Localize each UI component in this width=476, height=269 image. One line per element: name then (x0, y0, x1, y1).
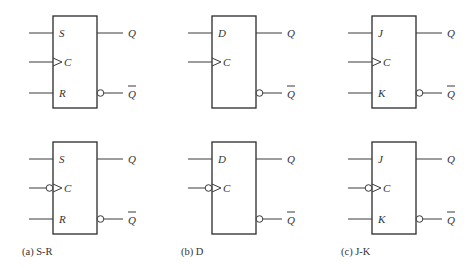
caption-sr: (a) S-R (22, 246, 53, 258)
inversion-bubble-icon (416, 90, 423, 97)
inversion-bubble-icon (256, 216, 263, 223)
output-label-q-bar: Q (287, 88, 295, 100)
output-label-q: Q (447, 153, 455, 165)
flip-flop-jk-rising-edge: JCKQQ (348, 16, 455, 108)
input-label-c: C (383, 182, 391, 194)
input-label-d: D (217, 153, 226, 165)
flip-flop-d-falling-edge: DCQQ (188, 142, 295, 234)
input-label-c: C (223, 56, 231, 68)
input-label-r: R (58, 213, 66, 225)
output-label-q-bar: Q (287, 214, 295, 226)
input-label-c: C (64, 56, 72, 68)
input-label-c: C (383, 56, 391, 68)
input-label-s: S (59, 153, 65, 165)
input-label-k: K (377, 213, 386, 225)
inversion-bubble-icon (205, 185, 212, 192)
inversion-bubble-icon (46, 185, 53, 192)
input-label-s: S (59, 27, 65, 39)
flip-flop-sr-rising-edge: SCRQQ (29, 16, 136, 108)
output-label-q: Q (447, 27, 455, 39)
inversion-bubble-icon (416, 216, 423, 223)
output-label-q: Q (287, 27, 295, 39)
flip-flop-sr-falling-edge: SCRQQ (29, 142, 136, 234)
inversion-bubble-icon (97, 216, 104, 223)
input-label-c: C (64, 182, 72, 194)
caption-d: (b) D (181, 246, 204, 258)
input-label-k: K (377, 87, 386, 99)
output-label-q-bar: Q (447, 214, 455, 226)
output-label-q: Q (128, 153, 136, 165)
inversion-bubble-icon (365, 185, 372, 192)
caption-jk: (c) J-K (341, 246, 371, 258)
flip-flop-diagram: SCRQQDCQQJCKQQSCRQQDCQQJCKQQ(a) S-R(b) D… (0, 0, 476, 269)
output-label-q-bar: Q (128, 88, 136, 100)
input-label-c: C (223, 182, 231, 194)
input-label-d: D (217, 27, 226, 39)
output-label-q: Q (128, 27, 136, 39)
output-label-q-bar: Q (447, 88, 455, 100)
output-label-q: Q (287, 153, 295, 165)
input-label-r: R (58, 87, 66, 99)
flip-flop-jk-falling-edge: JCKQQ (348, 142, 455, 234)
output-label-q-bar: Q (128, 214, 136, 226)
inversion-bubble-icon (256, 90, 263, 97)
inversion-bubble-icon (97, 90, 104, 97)
flip-flop-d-rising-edge: DCQQ (188, 16, 295, 108)
